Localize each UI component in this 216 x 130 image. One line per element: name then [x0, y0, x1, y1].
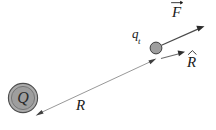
unit-vector-accent-wrap: R	[187, 55, 196, 70]
unit-vector-group	[161, 51, 185, 59]
force-line	[162, 29, 200, 46]
test-charge-disc	[149, 41, 163, 55]
separation-line	[39, 61, 153, 114]
force-arrowhead	[196, 26, 204, 32]
test-charge-qt	[149, 41, 163, 55]
unit-vector-line	[161, 53, 180, 58]
source-charge-Q: Q	[0, 75, 46, 121]
unit-vector-letter: R	[187, 55, 196, 70]
force-vector-group	[162, 26, 205, 45]
separation-vector-group	[36, 58, 157, 115]
force-vector-label: F	[172, 5, 181, 20]
force-vector-letter: F	[172, 5, 181, 20]
test-charge-label: qt	[132, 27, 141, 43]
force-vector-accent-wrap: F	[172, 5, 181, 20]
physics-diagram-canvas: Q F R R qt	[0, 0, 216, 130]
unit-vector-arrowhead	[178, 51, 185, 57]
unit-vector-label: R	[187, 55, 196, 70]
test-charge-circle	[150, 42, 162, 54]
separation-arrowhead-toward-test-charge	[148, 58, 156, 64]
source-charge-label: Q	[0, 75, 46, 121]
separation-label: R	[76, 98, 85, 113]
